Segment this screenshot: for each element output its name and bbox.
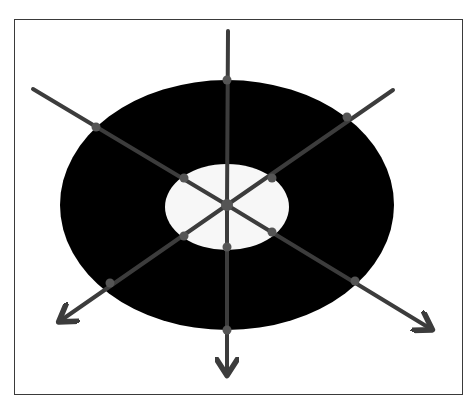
intersection-node	[351, 277, 360, 286]
intersection-node	[223, 76, 232, 85]
annulus-diagram	[0, 0, 473, 411]
intersection-node	[223, 326, 232, 335]
intersection-node	[92, 123, 101, 132]
center-node	[221, 199, 233, 211]
intersection-node	[223, 243, 232, 252]
ray-top	[227, 31, 228, 205]
intersection-node	[343, 113, 352, 122]
intersection-node	[268, 174, 277, 183]
intersection-node	[268, 228, 277, 237]
intersection-node	[106, 279, 115, 288]
intersection-node	[180, 174, 189, 183]
intersection-node	[180, 232, 189, 241]
